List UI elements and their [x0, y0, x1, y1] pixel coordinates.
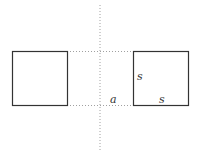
side-label-vertical: s [137, 70, 143, 83]
distance-label-a: a [110, 93, 117, 106]
side-label-horizontal: s [159, 93, 165, 106]
left-square [13, 52, 68, 106]
diagram-canvas: a s s [0, 0, 197, 155]
